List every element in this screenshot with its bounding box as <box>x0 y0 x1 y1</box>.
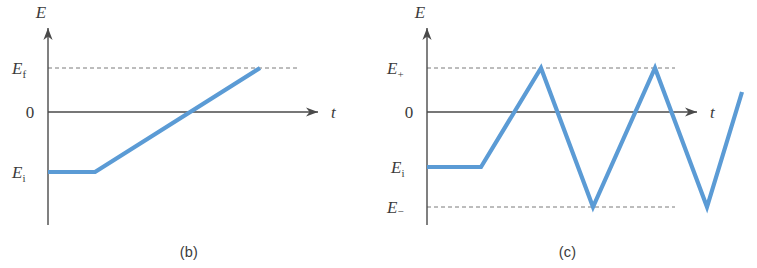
e-plus-base: E <box>386 59 398 78</box>
zero-tick-label: 0 <box>405 103 414 122</box>
e-plus-label: E+ <box>386 59 404 80</box>
e-initial-subscript: i <box>401 167 404 179</box>
e-initial-base: E <box>11 163 23 182</box>
e-axis-label: E <box>414 3 426 22</box>
panel-b: E t Ef 0 Ei (b) <box>0 0 378 268</box>
e-final-label: Ef <box>11 59 26 80</box>
panel-b-plot: E t Ef 0 Ei <box>0 0 378 245</box>
e-minus-label: E− <box>386 198 404 217</box>
e-initial-base: E <box>390 158 402 177</box>
e-plus-subscript: + <box>397 68 403 80</box>
e-initial-label: Ei <box>390 158 404 179</box>
zero-tick-label: 0 <box>26 103 35 122</box>
e-axis-label: E <box>35 3 47 22</box>
energy-triangle-wave-curve <box>427 68 742 207</box>
e-final-subscript: f <box>22 68 26 80</box>
panel-b-caption: (b) <box>0 244 378 260</box>
e-final-base: E <box>11 59 23 78</box>
panel-c-plot: E t E+ 0 Ei E− <box>378 0 757 245</box>
e-minus-base: E <box>386 198 398 217</box>
panel-c: E t E+ 0 Ei E− (c) <box>378 0 757 268</box>
t-axis-label: t <box>710 103 716 122</box>
e-initial-subscript: i <box>22 172 25 184</box>
e-minus-subscript: − <box>397 205 403 217</box>
panel-c-caption: (c) <box>378 244 757 260</box>
figure-container: E t Ef 0 Ei (b) <box>0 0 757 268</box>
t-axis-label: t <box>331 103 337 122</box>
energy-ramp-curve <box>48 68 260 172</box>
e-initial-label: Ei <box>11 163 25 184</box>
